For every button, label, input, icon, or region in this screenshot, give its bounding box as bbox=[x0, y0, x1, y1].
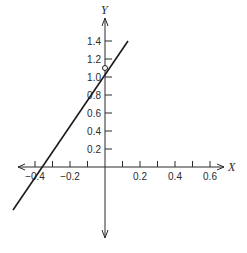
x-tick-label: 0.2 bbox=[133, 171, 147, 182]
x-tick-label: 0.6 bbox=[203, 171, 217, 182]
y-tick-label: 1.0 bbox=[87, 72, 101, 83]
plotted-line bbox=[13, 41, 128, 210]
graph-figure: −0.4−0.20.20.40.6 0.20.40.60.81.01.21.4 … bbox=[0, 0, 247, 253]
y-tick-label: 1.4 bbox=[87, 36, 101, 47]
x-tick-label: 0.4 bbox=[168, 171, 182, 182]
y-axis-label: Y bbox=[101, 3, 109, 17]
x-tick-label: −0.2 bbox=[60, 171, 80, 182]
x-axis-label: X bbox=[227, 160, 236, 174]
y-tick-label: 0.4 bbox=[87, 126, 101, 137]
x-ticks: −0.4−0.20.20.40.6 bbox=[25, 161, 217, 182]
open-point-marker bbox=[103, 66, 108, 71]
y-tick-label: 0.2 bbox=[87, 144, 101, 155]
y-tick-label: 1.2 bbox=[87, 54, 101, 65]
y-tick-label: 0.6 bbox=[87, 108, 101, 119]
